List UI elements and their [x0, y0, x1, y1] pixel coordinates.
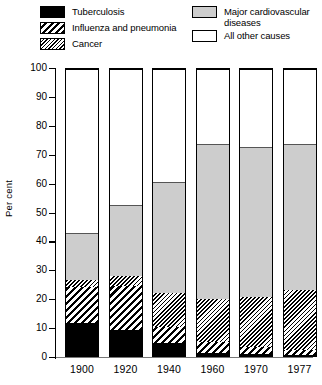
y-axis-tick-label: 70	[3, 150, 47, 160]
bar-segment-cardiovascular	[240, 147, 272, 298]
y-axis-tick-label: 20	[3, 294, 47, 304]
y-axis-tick-label: 10	[3, 323, 47, 333]
y-axis-tick	[49, 213, 56, 214]
bar-segment-tuberculosis	[66, 323, 98, 356]
bar-segment-influenza	[153, 327, 185, 343]
y-axis-labels: 0102030405060708090100	[0, 58, 47, 385]
bar-segment-other-causes	[197, 69, 229, 144]
legend-item-influenza: Influenza and pneumonia	[40, 22, 176, 35]
bar-segment-other-causes	[240, 69, 272, 147]
legend-column-right: Major cardiovascular diseases All other …	[192, 6, 310, 46]
bar-segment-cancer	[153, 293, 185, 327]
bar-1900[interactable]	[65, 68, 99, 357]
legend-label-cardiovascular: Major cardiovascular diseases	[224, 6, 310, 28]
y-axis-tick	[49, 299, 56, 300]
bar-segment-tuberculosis	[153, 343, 185, 356]
legend-item-tuberculosis: Tuberculosis	[40, 6, 176, 19]
bar-segment-cardiovascular	[153, 182, 185, 293]
bar-segment-influenza	[197, 342, 229, 353]
y-axis-tick	[49, 97, 56, 98]
bar-segment-cancer	[66, 280, 98, 287]
bar-segment-tuberculosis	[240, 354, 272, 356]
y-axis-tick-label: 0	[3, 352, 47, 362]
legend-label-other-causes: All other causes	[224, 30, 290, 41]
y-axis-tick	[49, 270, 56, 271]
bar-1970[interactable]	[239, 68, 273, 357]
legend-column-left: Tuberculosis Influenza and pneumonia Can…	[40, 6, 176, 54]
chart-legend: Tuberculosis Influenza and pneumonia Can…	[0, 0, 322, 58]
bar-1920[interactable]	[109, 68, 143, 357]
bar-1940[interactable]	[152, 68, 186, 357]
bar-segment-influenza	[240, 347, 272, 354]
bar-segment-other-causes	[66, 69, 98, 233]
y-axis-tick-label: 40	[3, 236, 47, 246]
legend-item-other-causes: All other causes	[192, 30, 310, 43]
y-axis-tick	[49, 155, 56, 156]
y-axis-tick-label: 50	[3, 208, 47, 218]
bar-segment-tuberculosis	[110, 330, 142, 356]
y-axis-tick	[49, 357, 56, 358]
y-axis-tick	[49, 126, 56, 127]
legend-label-cancer: Cancer	[72, 38, 102, 49]
chart-plot-area: Per cent 0102030405060708090100 19001920…	[0, 58, 322, 385]
legend-item-cancer: Cancer	[40, 38, 176, 51]
y-axis-tick-label: 100	[3, 63, 47, 73]
legend-item-cardiovascular: Major cardiovascular diseases	[192, 6, 310, 27]
y-axis-tick-label: 30	[3, 265, 47, 275]
bar-1977[interactable]	[283, 68, 317, 357]
bar-segment-cardiovascular	[66, 233, 98, 280]
y-axis-tick-label: 60	[3, 179, 47, 189]
y-axis-tick	[49, 328, 56, 329]
bar-segment-other-causes	[284, 69, 316, 144]
x-axis-tick-label: 1977	[274, 363, 322, 375]
legend-swatch-tuberculosis	[40, 6, 65, 18]
bar-segment-tuberculosis	[284, 355, 316, 356]
legend-swatch-cancer	[40, 38, 65, 50]
bar-segment-cancer	[284, 290, 316, 350]
legend-swatch-other-causes	[192, 30, 217, 42]
bar-segment-cardiovascular	[197, 144, 229, 299]
y-axis-tick-label: 90	[3, 92, 47, 102]
bar-segment-other-causes	[153, 69, 185, 182]
bar-segment-other-causes	[110, 69, 142, 205]
y-axis-tick	[49, 184, 56, 185]
bar-segment-cardiovascular	[110, 205, 142, 275]
bar-segment-influenza	[110, 286, 142, 330]
bar-segment-cardiovascular	[284, 144, 316, 290]
y-axis-tick	[49, 241, 56, 242]
y-axis-tick-label: 80	[3, 121, 47, 131]
legend-swatch-cardiovascular	[192, 6, 217, 18]
stacked-bars: 190019201940196019701977	[55, 58, 313, 385]
legend-swatch-influenza	[40, 22, 65, 34]
bar-segment-cancer	[240, 297, 272, 347]
bar-segment-cancer	[197, 299, 229, 342]
bar-segment-tuberculosis	[197, 353, 229, 356]
legend-label-tuberculosis: Tuberculosis	[72, 6, 124, 17]
y-axis-tick	[49, 68, 56, 69]
legend-label-influenza: Influenza and pneumonia	[72, 22, 176, 33]
bar-1960[interactable]	[196, 68, 230, 357]
bar-segment-cancer	[110, 276, 142, 286]
bar-segment-influenza	[66, 287, 98, 323]
